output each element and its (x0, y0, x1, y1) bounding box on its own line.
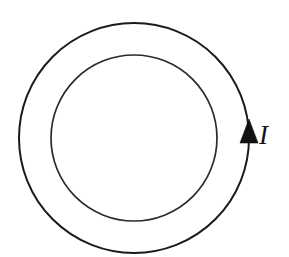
inner-circle (51, 55, 217, 221)
current-direction-arrow-icon (240, 119, 258, 143)
figure-canvas: I (0, 0, 289, 257)
outer-circle (19, 23, 249, 253)
current-label: I (259, 122, 268, 149)
annulus-diagram (0, 0, 289, 257)
